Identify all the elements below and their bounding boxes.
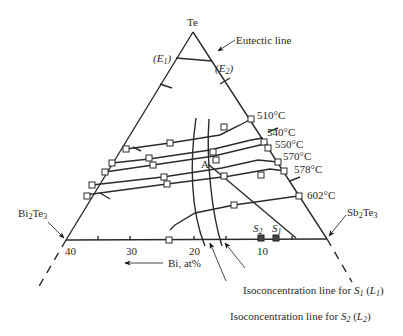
e2-label: (E2) <box>215 63 233 76</box>
tick-label-20: 20 <box>189 246 200 257</box>
corner-label-bi2te3: Bi2Te3 <box>18 208 47 221</box>
s2-label: S2 <box>253 223 263 236</box>
tick-label-30: 30 <box>126 246 137 257</box>
base-axis <box>66 239 327 240</box>
s1-label: S1 <box>272 223 282 236</box>
isotherm-label-550: 550°C <box>275 139 303 150</box>
apex-label-te: Te <box>187 17 198 28</box>
isotherm-label-510: 510°C <box>257 110 285 121</box>
isotherm-label-578: 578°C <box>294 164 322 175</box>
left-edge <box>66 32 193 240</box>
tick-label-10: 10 <box>257 246 268 257</box>
callout-isoconcentration-s2: Isoconcentration line for S2 (L2) <box>230 311 371 324</box>
corner-label-sb2te3: Sb2Te3 <box>347 207 377 220</box>
axis-label-bi-at-percent: Bi, at% <box>168 258 201 269</box>
point-a-label: A <box>201 159 209 170</box>
isotherm-label-602: 602°C <box>307 190 335 201</box>
callout-isoconcentration-s1: Isoconcentration line for S1 (L1) <box>243 285 384 298</box>
isotherm-label-570: 570°C <box>283 151 311 162</box>
isoconcentration-line-l1 <box>208 119 222 246</box>
eutectic-line <box>176 58 212 61</box>
left-dashed-extension <box>38 240 66 288</box>
isotherm-label-540: 540°C <box>267 127 295 138</box>
right-dashed-extension <box>327 239 352 282</box>
tick-label-40: 40 <box>65 246 76 257</box>
e1-label: (E1) <box>153 53 171 66</box>
eutectic-line-label: Eutectic line <box>236 35 291 46</box>
